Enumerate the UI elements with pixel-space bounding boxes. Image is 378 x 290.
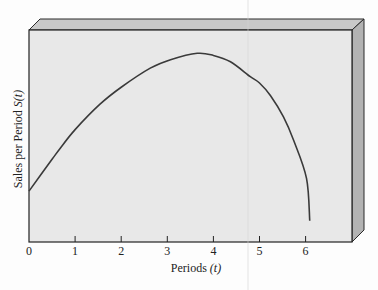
chart: 0123456 Periods (t) Sales per Period S(t… [0,0,378,290]
x-tick-label: 5 [257,244,263,259]
box-side-face [352,19,364,242]
plot-area [0,0,378,290]
x-tick-label: 0 [26,244,32,259]
x-axis-label: Periods (t) [171,261,221,276]
x-tick-label: 2 [118,244,124,259]
box-front-panel [29,30,352,242]
box-top-face [29,19,364,30]
x-tick-label: 3 [164,244,170,259]
x-tick-label: 1 [72,244,78,259]
x-tick-label: 4 [210,244,216,259]
x-tick-label: 6 [303,244,309,259]
y-axis-label: Sales per Period S(t) [11,90,26,188]
